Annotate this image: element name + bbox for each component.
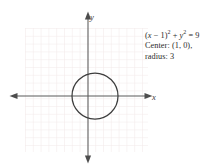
equation-equals-nine: = 9 — [186, 31, 199, 40]
x-axis-label: x — [152, 92, 156, 102]
figure-container: y x (x − 1)2 + y2 = 9 Center: (1, 0), ra… — [0, 0, 210, 166]
grid-lines — [25, 28, 148, 152]
annotation-radius-line: radius: 3 — [145, 52, 210, 62]
equation-minus-one: − 1) — [152, 31, 168, 40]
coordinate-plane-graphic — [0, 0, 210, 166]
equation-plus-operator: + — [171, 31, 180, 40]
annotation-equation-line: (x − 1)2 + y2 = 9 — [145, 31, 210, 41]
equation-annotation: (x − 1)2 + y2 = 9 Center: (1, 0), radius… — [145, 31, 210, 62]
y-axis-label: y — [90, 12, 94, 22]
annotation-center-line: Center: (1, 0), — [145, 41, 210, 51]
